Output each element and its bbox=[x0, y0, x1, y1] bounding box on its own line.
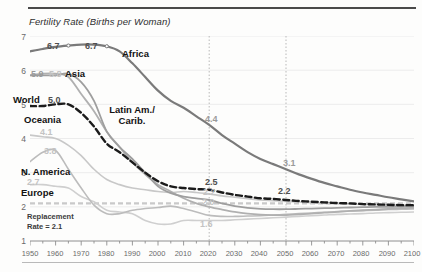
series-label-europe: Europe bbox=[21, 188, 54, 199]
series-label-africa: Africa bbox=[122, 49, 149, 60]
y-tick-2: 2 bbox=[12, 202, 26, 212]
value-world-1965: 5.0 bbox=[48, 95, 61, 105]
replacement-note-line1: Replacement bbox=[27, 212, 74, 221]
value-world-2020: 2.5 bbox=[205, 177, 218, 187]
value-asia-1965: 5.9 bbox=[31, 69, 44, 79]
value-latam-2020: 2.0 bbox=[202, 197, 215, 207]
value-oceania-1950: 4.1 bbox=[40, 127, 53, 137]
value-africa-1980: 6.7 bbox=[85, 41, 98, 51]
value-africa-2050: 3.1 bbox=[283, 158, 296, 168]
bottom-divider-rule bbox=[22, 262, 414, 263]
series-line-latin-am-carib bbox=[30, 73, 414, 215]
series-label-oceania: Oceania bbox=[24, 115, 61, 126]
top-divider-rule bbox=[28, 7, 416, 9]
series-label-latam-line1: Latin Am./ bbox=[109, 104, 155, 115]
africa-marker-1980 bbox=[105, 45, 108, 48]
plot-area bbox=[30, 36, 414, 241]
y-tick-1: 1 bbox=[12, 236, 26, 246]
x-tick-2100: 2100 bbox=[397, 249, 422, 258]
series-label-asia: Asia bbox=[65, 69, 85, 80]
replacement-note-line2: Rate = 2.1 bbox=[27, 222, 62, 231]
y-tick-4: 4 bbox=[12, 134, 26, 144]
chart-svg bbox=[30, 36, 414, 255]
value-latam-1965: 5.8 bbox=[49, 69, 62, 79]
replacement-rate-note: Replacement Rate = 2.1 bbox=[27, 212, 74, 231]
value-world-2050: 2.2 bbox=[278, 186, 291, 196]
value-africa-2020: 4.4 bbox=[205, 114, 218, 124]
series-line-oceania bbox=[30, 135, 414, 205]
value-europe-2020: 1.6 bbox=[200, 219, 213, 229]
series-label-namerica: N. America bbox=[21, 167, 70, 178]
series-line-africa bbox=[30, 44, 414, 201]
series-label-latam-line2: Carib. bbox=[119, 115, 146, 126]
value-africa-1965: 6.7 bbox=[47, 41, 60, 51]
value-namerica-1960: 2.7 bbox=[27, 177, 40, 187]
africa-marker-1965 bbox=[67, 44, 70, 47]
series-label-latam: Latin Am./ Carib. bbox=[104, 105, 160, 126]
series-line-asia bbox=[30, 73, 414, 209]
value-asia-2020: 2.2 bbox=[203, 187, 216, 197]
y-tick-6: 6 bbox=[12, 66, 26, 76]
chart-title: Fertility Rate (Births per Woman) bbox=[29, 16, 171, 27]
fertility-rate-chart-figure: Fertility Rate (Births per Woman) 7 6 5 … bbox=[0, 0, 422, 272]
y-tick-7: 7 bbox=[12, 32, 26, 42]
value-oceania-1965: 3.8 bbox=[44, 146, 57, 156]
series-label-world: World bbox=[13, 95, 40, 106]
series-line-world bbox=[30, 104, 414, 206]
